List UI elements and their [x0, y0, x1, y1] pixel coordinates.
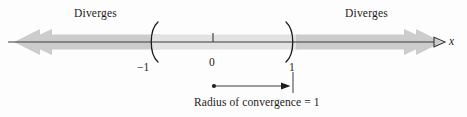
- radius-measure-annotation: [212, 72, 293, 93]
- tick-label-negative-one: −1: [137, 62, 149, 74]
- tick-label-one: 1: [289, 62, 295, 74]
- tick-label-zero: 0: [209, 57, 215, 69]
- radius-of-convergence-caption: Radius of convergence = 1: [194, 97, 320, 109]
- diverges-right-label: Diverges: [345, 8, 388, 20]
- diverges-left-label: Diverges: [74, 8, 117, 20]
- x-axis-label: x: [449, 36, 454, 48]
- interval-of-convergence-figure: Diverges Diverges −1 0 1 x Radius of con…: [0, 0, 467, 117]
